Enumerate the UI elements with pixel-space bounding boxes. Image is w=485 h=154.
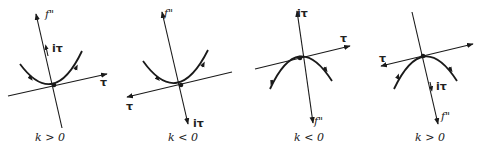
tau-axis — [8, 74, 107, 96]
f-axis — [412, 12, 438, 124]
f-label: f" — [440, 110, 450, 123]
itau-label: iτ — [193, 117, 204, 130]
itau-arrow-icon — [430, 82, 432, 89]
panel-3: iτ f" τ k < 0 — [255, 7, 350, 144]
f-label: f" — [44, 8, 54, 21]
saddle-point — [421, 54, 426, 59]
tau-label: τ — [126, 100, 133, 113]
tau-label: τ — [100, 76, 107, 89]
f-label: f" — [163, 7, 173, 20]
f-label: f" — [313, 115, 323, 128]
saddle-point — [179, 83, 184, 88]
parabola-curve — [270, 56, 332, 89]
itau-label: iτ — [297, 7, 308, 20]
f-axis — [305, 66, 313, 123]
curve-arrow-icon — [202, 64, 204, 67]
saddle-point — [298, 56, 303, 61]
caption: k > 0 — [415, 131, 445, 144]
itau-arrow-icon — [46, 47, 48, 56]
panel-2: f" iτ τ k < 0 — [126, 7, 232, 144]
parabola-curve — [394, 56, 457, 89]
curve-arrow-icon — [75, 67, 77, 70]
parabola-curve — [143, 50, 208, 83]
f-axis — [36, 14, 62, 128]
curve-arrow-icon — [397, 76, 398, 79]
f-axis — [162, 12, 175, 68]
itau-label: iτ — [436, 80, 447, 93]
panel-4: iτ f" τ k > 0 — [379, 12, 473, 144]
tau-axis-left — [381, 56, 423, 66]
caption: k < 0 — [168, 131, 198, 144]
caption: k > 0 — [35, 131, 65, 144]
panel-1: f" iτ τ k > 0 — [8, 8, 107, 144]
saddle-point-diagram: f" iτ τ k > 0 f" iτ τ k < 0 iτ f" τ k < … — [0, 0, 485, 154]
tau-axis-right — [423, 44, 473, 56]
saddle-point — [52, 83, 57, 88]
itau-label: iτ — [52, 42, 63, 55]
tau-label: τ — [379, 52, 386, 65]
tau-label: τ — [340, 32, 347, 45]
itau-axis — [175, 68, 188, 124]
caption: k < 0 — [294, 131, 324, 144]
